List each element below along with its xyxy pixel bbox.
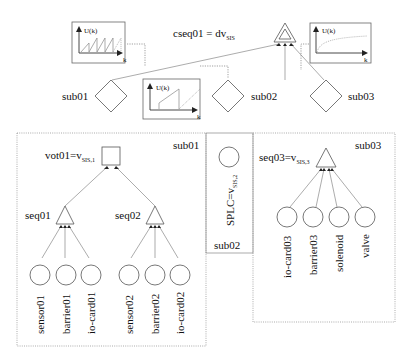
basic-event-sensor02[interactable]	[119, 265, 139, 285]
event-label-io-card01: io-card01	[85, 292, 97, 334]
basic-event-barrier02[interactable]	[145, 265, 165, 285]
top-connectors	[112, 43, 324, 80]
subsystem-diamond-sub01[interactable]	[95, 80, 127, 112]
basic-event-sensor01[interactable]	[30, 265, 50, 285]
basic-event-io-card02[interactable]	[170, 265, 190, 285]
basic-event-io-card01[interactable]	[81, 265, 101, 285]
event-label-barrier03: barrier03	[307, 234, 319, 275]
event-label-io-card02: io-card02	[174, 292, 186, 334]
unreliability-plot-sub03: U(k) k	[310, 23, 371, 64]
event-label-barrier02: barrier02	[149, 294, 161, 334]
frame-label-sub02: sub02	[214, 239, 240, 251]
subsystem-label-sub03: sub03	[348, 90, 375, 102]
event-label-valve: valve	[359, 234, 371, 258]
unreliability-plot-sub01: U(k) k	[72, 22, 127, 64]
plot-leader-sub03	[301, 44, 309, 70]
basic-event-barrier01[interactable]	[56, 265, 76, 285]
subsystem-label-sub02: sub02	[251, 90, 277, 102]
gate-label-seq03: seq03=vSIS,3	[259, 151, 310, 165]
svg-text:k: k	[197, 113, 201, 121]
plot-leader-sub02	[200, 66, 228, 78]
event-label-solenoid: solenoid	[333, 234, 345, 272]
subsystem-label-sub01: sub01	[62, 90, 88, 102]
plot-leader-sub01	[127, 44, 145, 66]
event-label-sensor01: sensor01	[34, 295, 46, 334]
svg-text:k: k	[123, 56, 127, 64]
unreliability-plot-sub02: U(k) k	[143, 79, 201, 121]
seq-gate-seq01[interactable]	[56, 206, 74, 224]
svg-text:U(k): U(k)	[156, 84, 170, 92]
dynamic-fault-tree-diagram: cseq01 = dvSIS sub01 sub02 sub03 U(k) k	[0, 0, 403, 364]
basic-event-barrier03[interactable]	[303, 207, 323, 227]
event-label-io-card03: io-card03	[281, 235, 293, 278]
svg-text:U(k): U(k)	[322, 27, 336, 35]
top-gate-label: cseq01 = dvSIS	[173, 27, 235, 41]
voter-label: vot01=vSIS,1	[45, 149, 95, 163]
seq-gate-seq03[interactable]	[316, 148, 336, 167]
event-label-barrier01: barrier01	[60, 294, 72, 334]
gate-label-seq02: seq02	[115, 209, 141, 221]
seq-gate-seq02[interactable]	[146, 206, 164, 224]
frame-label-sub03: sub03	[355, 139, 382, 151]
basic-event-splc[interactable]	[219, 147, 239, 167]
frame-label-sub01: sub01	[173, 139, 199, 151]
basic-event-solenoid[interactable]	[329, 207, 349, 227]
gate-label-seq01: seq01	[25, 209, 51, 221]
event-label-splc: SPLC=vSIS,2	[224, 175, 238, 226]
basic-event-valve[interactable]	[355, 207, 375, 227]
subsystem-diamond-sub03[interactable]	[310, 80, 342, 112]
subsystem-diamond-sub02[interactable]	[212, 80, 244, 112]
basic-event-io-card03[interactable]	[277, 207, 297, 227]
svg-text:U(k): U(k)	[84, 27, 98, 35]
svg-text:k: k	[364, 56, 368, 64]
top-gate-cseq01[interactable]	[274, 23, 296, 42]
voter-gate-vot01[interactable]	[102, 147, 120, 165]
event-label-sensor02: sensor02	[123, 295, 135, 334]
